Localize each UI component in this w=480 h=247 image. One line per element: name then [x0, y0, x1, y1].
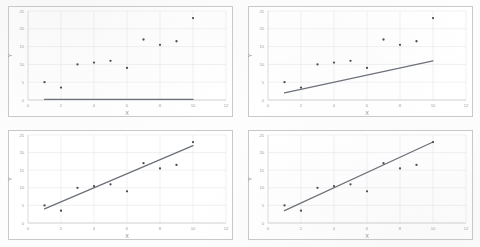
- y-tick-label: 5: [262, 80, 265, 85]
- data-point: [349, 183, 351, 185]
- fit-line: [285, 61, 434, 93]
- data-point: [159, 167, 161, 169]
- x-tick-label: 2: [60, 103, 63, 108]
- y-tick-label: 10: [259, 62, 264, 67]
- y-tick-label: 15: [19, 44, 24, 49]
- data-point: [316, 63, 318, 65]
- y-tick-label: 25: [259, 9, 264, 14]
- y-tick-label: 20: [19, 150, 24, 155]
- x-tick-label: 10: [191, 226, 196, 231]
- data-point: [175, 40, 177, 42]
- y-tick-label: 20: [259, 150, 264, 155]
- y-tick-label: 10: [19, 62, 24, 67]
- y-axis-title: Y: [247, 177, 253, 181]
- data-point: [142, 38, 144, 40]
- data-point: [60, 210, 62, 212]
- chart-grid: 0510152025024681012XY 051015202502468101…: [0, 0, 480, 247]
- data-point: [283, 81, 285, 83]
- x-tick-label: 6: [126, 226, 129, 231]
- data-point: [349, 60, 351, 62]
- scatter-chart-bottom-left: 0510152025024681012XY: [0, 124, 240, 247]
- x-tick-label: 4: [93, 103, 96, 108]
- plot-area-bottom-left: 0510152025024681012XY: [0, 124, 240, 247]
- y-tick-label: 15: [259, 168, 264, 173]
- chart-panel-bottom-right: 0510152025024681012XY: [240, 124, 480, 247]
- data-point: [192, 17, 194, 19]
- fit-line: [285, 142, 434, 211]
- data-point: [333, 185, 335, 187]
- x-tick-label: 12: [224, 103, 229, 108]
- x-tick-label: 6: [126, 103, 129, 108]
- data-point: [126, 67, 128, 69]
- x-tick-label: 0: [27, 226, 30, 231]
- data-point: [316, 187, 318, 189]
- x-tick-label: 12: [464, 103, 469, 108]
- x-tick-label: 6: [366, 103, 369, 108]
- data-point: [399, 44, 401, 46]
- x-tick-label: 8: [399, 226, 402, 231]
- data-point: [399, 167, 401, 169]
- data-point: [43, 204, 45, 206]
- data-point: [333, 61, 335, 63]
- chart-panel-top-left: 0510152025024681012XY: [0, 0, 240, 124]
- x-tick-label: 0: [267, 226, 270, 231]
- x-tick-label: 2: [300, 226, 303, 231]
- data-point: [93, 185, 95, 187]
- y-tick-label: 10: [259, 185, 264, 190]
- data-point: [43, 81, 45, 83]
- y-tick-label: 25: [259, 133, 264, 138]
- data-point: [432, 141, 434, 143]
- x-tick-label: 8: [159, 226, 162, 231]
- x-tick-label: 4: [333, 226, 336, 231]
- data-point: [366, 190, 368, 192]
- y-tick-label: 15: [19, 168, 24, 173]
- x-tick-label: 0: [267, 103, 270, 108]
- data-point: [300, 210, 302, 212]
- x-tick-label: 4: [333, 103, 336, 108]
- data-point: [76, 63, 78, 65]
- y-tick-label: 20: [259, 26, 264, 31]
- y-tick-label: 0: [22, 221, 25, 226]
- x-tick-label: 12: [224, 226, 229, 231]
- x-tick-label: 8: [159, 103, 162, 108]
- data-point: [432, 17, 434, 19]
- x-tick-label: 0: [27, 103, 30, 108]
- data-point: [126, 190, 128, 192]
- data-point: [415, 164, 417, 166]
- chart-panel-top-right: 0510152025024681012XY: [240, 0, 480, 124]
- data-point: [159, 44, 161, 46]
- data-point: [300, 86, 302, 88]
- y-axis-title: Y: [247, 53, 253, 57]
- x-tick-label: 4: [93, 226, 96, 231]
- x-axis-title: X: [125, 110, 129, 116]
- x-tick-label: 10: [191, 103, 196, 108]
- y-tick-label: 0: [262, 98, 265, 103]
- plot-area-top-right: 0510152025024681012XY: [240, 0, 480, 124]
- chart-panel-bottom-left: 0510152025024681012XY: [0, 124, 240, 247]
- plot-area-bottom-right: 0510152025024681012XY: [240, 124, 480, 247]
- data-point: [142, 162, 144, 164]
- screenshot-root: 0510152025024681012XY 051015202502468101…: [0, 0, 480, 247]
- x-tick-label: 2: [60, 226, 63, 231]
- scatter-chart-bottom-right: 0510152025024681012XY: [240, 124, 480, 247]
- y-tick-label: 20: [19, 26, 24, 31]
- x-tick-label: 6: [366, 226, 369, 231]
- y-tick-label: 25: [19, 133, 24, 138]
- y-tick-label: 0: [22, 98, 25, 103]
- scatter-chart-top-left: 0510152025024681012XY: [0, 0, 240, 124]
- data-point: [93, 61, 95, 63]
- data-point: [366, 67, 368, 69]
- data-point: [382, 38, 384, 40]
- plot-area-top-left: 0510152025024681012XY: [0, 0, 240, 124]
- x-axis-title: X: [365, 233, 369, 239]
- y-tick-label: 5: [22, 80, 25, 85]
- x-tick-label: 10: [431, 226, 436, 231]
- data-point: [60, 86, 62, 88]
- data-point: [109, 60, 111, 62]
- data-point: [415, 40, 417, 42]
- scatter-chart-top-right: 0510152025024681012XY: [240, 0, 480, 124]
- y-tick-label: 25: [19, 9, 24, 14]
- y-tick-label: 0: [262, 221, 265, 226]
- x-axis-title: X: [125, 233, 129, 239]
- data-point: [382, 162, 384, 164]
